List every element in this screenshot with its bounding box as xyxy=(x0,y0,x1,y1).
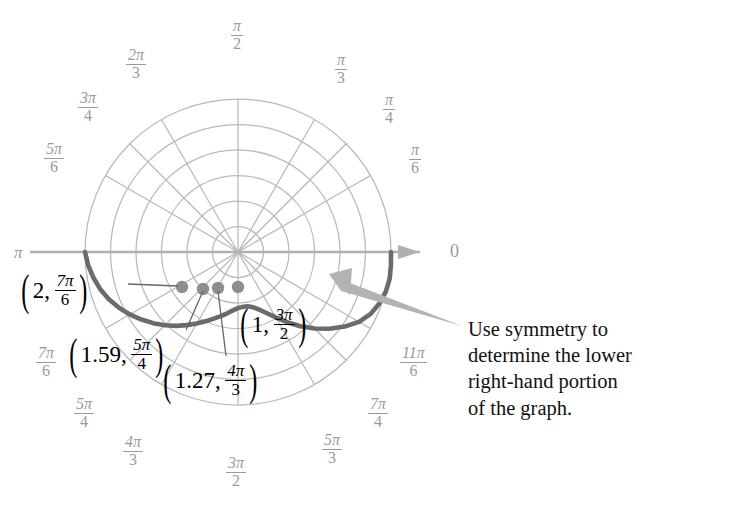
angle-tick-5pi-over-6: 5π6 xyxy=(44,141,64,176)
paren-open: ( xyxy=(240,306,248,343)
angle-tick-2pi-over-3: 2π3 xyxy=(126,47,146,82)
grid-spoke xyxy=(162,119,239,252)
label-159-5pi-4: (1.59, 5π4) xyxy=(66,336,167,373)
angle-tick-pi-over-4: π4 xyxy=(383,92,395,127)
label-2-7pi-6: (2, 7π6) xyxy=(18,272,90,309)
angle-tick-5pi-over-4: 5π4 xyxy=(74,396,94,431)
grid-spoke xyxy=(238,144,346,252)
angle-tick-5pi-over-3: 5π3 xyxy=(322,432,342,467)
grid-spoke xyxy=(130,144,238,252)
paren-close: ) xyxy=(79,272,87,309)
grid-spoke xyxy=(238,176,371,253)
angle-tick-3pi-over-4: 3π4 xyxy=(78,90,98,125)
angle-tick-pi-over-2: π2 xyxy=(231,18,243,53)
label-1-3pi-2: (1, 3π2) xyxy=(237,306,309,343)
axis-label-pi: π xyxy=(14,244,23,261)
paren-close: ) xyxy=(250,362,258,399)
angle-tick-pi-over-3: π3 xyxy=(335,52,347,87)
data-point xyxy=(232,281,244,293)
symmetry-annotation: Use symmetry to determine the lower righ… xyxy=(468,316,632,421)
angle-tick-7pi-over-4: 7π4 xyxy=(368,396,388,431)
angle-tick-7pi-over-6: 7π6 xyxy=(36,345,56,380)
polar-graph-figure: π22π33π45π6π3π4π67π65π44π33π25π37π411π6 … xyxy=(0,0,735,521)
grid-spoke xyxy=(105,176,238,253)
paren-close: ) xyxy=(298,306,306,343)
paren-open: ( xyxy=(163,362,171,399)
polar-plot-canvas xyxy=(0,0,735,521)
data-point xyxy=(176,281,188,293)
plotted-points xyxy=(176,281,244,295)
axis-label-zero: 0 xyxy=(450,242,459,260)
angle-tick-11pi-over-6: 11π6 xyxy=(400,345,427,380)
angle-tick-4pi-over-3: 4π3 xyxy=(123,434,143,469)
angle-tick-pi-over-6: π6 xyxy=(409,142,421,177)
paren-open: ( xyxy=(69,336,77,373)
paren-open: ( xyxy=(21,272,29,309)
angle-tick-3pi-over-2: 3π2 xyxy=(226,455,246,490)
grid-spoke xyxy=(238,119,315,252)
symmetry-arrow xyxy=(329,268,462,326)
label-127-4pi-3: (1.27, 4π3) xyxy=(160,362,261,399)
data-point xyxy=(197,283,209,295)
